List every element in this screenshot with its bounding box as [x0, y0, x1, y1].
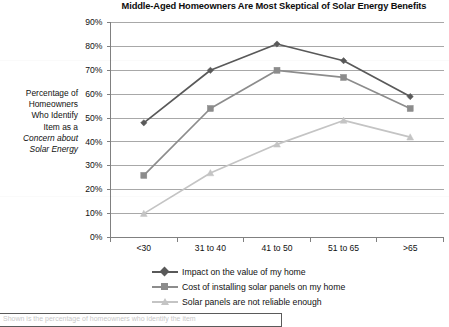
- legend-item-cost-of-installing[interactable]: Cost of installing solar panels on my ho…: [152, 279, 442, 294]
- legend-item-impact-on-value[interactable]: Impact on the value of my home: [152, 264, 442, 279]
- legend-triangle-marker-icon: [152, 295, 178, 308]
- y-tick-label: 30%: [73, 160, 103, 170]
- y-tick-label: 10%: [73, 208, 103, 218]
- chart-legend: Impact on the value of my home Cost of i…: [152, 264, 442, 309]
- x-tick-label: <30: [111, 243, 178, 253]
- y-tick-label: 60%: [73, 89, 103, 99]
- square-icon: [161, 283, 168, 290]
- legend-square-marker-icon: [152, 280, 178, 293]
- legend-label-1: Impact on the value of my home: [178, 267, 306, 277]
- y-tick-label: 70%: [73, 65, 103, 75]
- x-tick-label: 41 to 50: [244, 243, 311, 253]
- scan-artifact: [0, 60, 449, 61]
- y-tick-label: 50%: [73, 113, 103, 123]
- x-tick-label: >65: [377, 243, 444, 253]
- legend-item-not-reliable[interactable]: Solar panels are not reliable enough: [152, 294, 442, 309]
- clipped-footnote-text: Shown is the percentage of homeowners wh…: [3, 315, 196, 322]
- legend-label-3: Solar panels are not reliable enough: [178, 297, 322, 307]
- y-tick-label: 0%: [73, 232, 103, 242]
- scan-artifact: [0, 196, 449, 197]
- triangle-icon: [161, 298, 169, 305]
- y-tick-label: 80%: [73, 41, 103, 51]
- x-tick-label: 31 to 40: [177, 243, 244, 253]
- x-tick-label: 51 to 65: [310, 243, 377, 253]
- y-tick-label: 40%: [73, 137, 103, 147]
- diamond-icon: [160, 267, 170, 277]
- legend-diamond-marker-icon: [152, 265, 178, 278]
- legend-label-2: Cost of installing solar panels on my ho…: [178, 282, 345, 292]
- y-tick-label: 90%: [73, 17, 103, 27]
- clipped-footnote-box: Shown is the percentage of homeowners wh…: [0, 313, 282, 327]
- y-tick-label: 20%: [73, 184, 103, 194]
